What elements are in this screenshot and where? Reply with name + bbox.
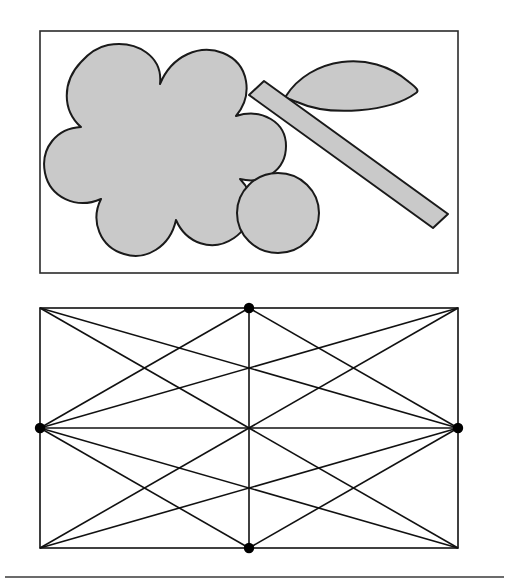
vertex-bottom-center (244, 543, 254, 553)
figure-page (0, 0, 507, 588)
leaf-lens-shape (286, 61, 418, 111)
lattice-panel (35, 303, 463, 553)
lattice-line-group (40, 308, 458, 548)
vertex-middle-right (453, 423, 463, 433)
shapes-panel (40, 31, 458, 273)
figure-canvas (0, 0, 507, 588)
circle-shape (237, 173, 319, 253)
vertex-top-center (244, 303, 254, 313)
vertex-middle-left (35, 423, 45, 433)
